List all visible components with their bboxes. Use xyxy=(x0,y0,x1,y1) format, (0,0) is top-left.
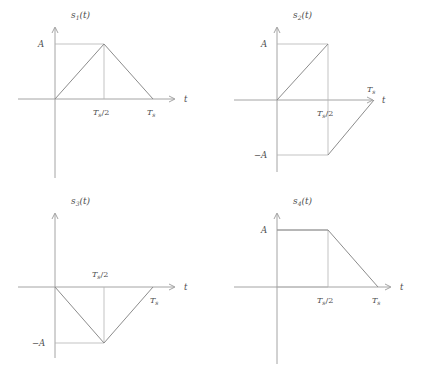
tick-label-half-period: Ts/2 xyxy=(93,108,109,118)
x-axis-label: t xyxy=(382,95,386,105)
tick-label-full-period: Ts xyxy=(150,296,158,306)
amplitude-label-A: A xyxy=(37,39,44,49)
function-label: s2(t) xyxy=(293,10,313,21)
tick-label-half-period: Ts/2 xyxy=(92,270,108,280)
signal-trace xyxy=(277,230,378,287)
x-axis-label: t xyxy=(184,282,188,292)
amplitude-label-A: A xyxy=(260,39,267,49)
plot-panel-s3: s3(t) t −A Ts/2 Ts xyxy=(0,186,216,373)
function-label: s1(t) xyxy=(71,10,91,21)
signal-trace xyxy=(277,44,328,100)
plot-panel-s2: s2(t) t A −A Ts/2 Ts xyxy=(216,0,432,187)
signal-trace-second-ramp xyxy=(328,100,374,155)
function-label: s4(t) xyxy=(293,196,313,207)
tick-label-full-period: Ts xyxy=(372,296,380,306)
amplitude-label-A: A xyxy=(260,225,267,235)
plot-panel-s4: s4(t) t A Ts/2 Ts xyxy=(216,186,432,373)
tick-label-full-period: Ts xyxy=(367,85,375,95)
amplitude-label-neg-A: −A xyxy=(254,150,267,160)
amplitude-label-neg-A: −A xyxy=(32,338,45,348)
function-label: s3(t) xyxy=(71,196,91,207)
tick-label-half-period: Ts/2 xyxy=(317,296,333,306)
x-axis-label: t xyxy=(184,94,188,104)
x-axis-label: t xyxy=(400,282,404,292)
plot-panel-s1: s1(t) t A Ts/2 Ts xyxy=(0,0,216,187)
tick-label-half-period: Ts/2 xyxy=(317,109,333,119)
tick-label-full-period: Ts xyxy=(147,108,155,118)
signal-waveform-figure: s1(t) t A Ts/2 Ts xyxy=(0,0,432,373)
